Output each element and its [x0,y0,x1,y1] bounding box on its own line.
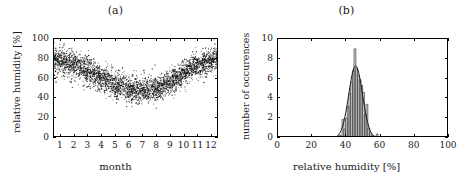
x-tick-mark-top [197,38,198,41]
y-tick-mark [53,58,56,59]
y-tick-mark-right [215,38,218,39]
x-tick-label: 0 [266,141,288,150]
panel-a: (a) relative humidity [%] month 12345678… [0,0,231,185]
x-tick-mark [414,134,415,137]
y-tick-mark-right [445,137,448,138]
y-tick-mark [277,58,280,59]
y-tick-mark [53,117,56,118]
x-tick-mark [184,134,185,137]
y-tick-label: 40 [23,93,49,102]
y-tick-label: 8 [247,54,273,63]
x-tick-mark [345,134,346,137]
x-tick-mark-top [115,38,116,41]
x-tick-mark [448,134,449,137]
y-tick-mark [277,38,280,39]
panel-b-y-axis-label: number of occurences [240,33,251,140]
y-tick-mark [277,97,280,98]
x-tick-mark-top [448,38,449,41]
x-tick-mark [380,134,381,137]
panel-b-x-axis-label: relative humidity [%] [231,161,462,172]
x-tick-mark [129,134,130,137]
x-tick-label: 100 [437,141,459,150]
x-tick-mark-top [184,38,185,41]
x-tick-label: 80 [403,141,425,150]
x-tick-mark-top [414,38,415,41]
x-tick-label: 20 [300,141,322,150]
y-tick-label: 4 [247,93,273,102]
x-tick-mark [211,134,212,137]
x-tick-label: 60 [369,141,391,150]
x-tick-mark [156,134,157,137]
x-tick-mark-top [170,38,171,41]
y-tick-mark [53,78,56,79]
panel-a-y-axis-label: relative humidity [%] [11,31,22,133]
y-tick-mark [277,117,280,118]
x-tick-mark [197,134,198,137]
y-tick-label: 100 [23,34,49,43]
x-tick-mark-top [101,38,102,41]
y-tick-mark-right [215,117,218,118]
y-tick-mark-right [445,78,448,79]
panel-b-plot-area [277,38,448,137]
x-tick-mark-top [142,38,143,41]
x-tick-mark [115,134,116,137]
y-tick-label: 0 [23,133,49,142]
x-tick-mark-top [74,38,75,41]
y-tick-label: 10 [247,34,273,43]
x-tick-mark-top [380,38,381,41]
x-tick-mark-top [60,38,61,41]
x-tick-label: 12 [200,141,222,150]
y-tick-mark [53,97,56,98]
y-tick-mark-right [215,58,218,59]
x-tick-mark [311,134,312,137]
figure-container: (a) relative humidity [%] month 12345678… [0,0,462,185]
x-tick-mark-top [311,38,312,41]
x-tick-mark [74,134,75,137]
y-tick-mark-right [215,78,218,79]
y-tick-label: 0 [247,133,273,142]
panel-b: (b) number of occurences relative humidi… [231,0,462,185]
y-tick-mark [53,38,56,39]
y-tick-label: 6 [247,74,273,83]
y-tick-mark [53,137,56,138]
panel-a-x-axis-label: month [0,161,231,172]
y-tick-mark-right [445,117,448,118]
y-tick-mark-right [445,58,448,59]
x-tick-mark [60,134,61,137]
x-tick-mark-top [211,38,212,41]
x-tick-mark-top [156,38,157,41]
y-tick-mark [277,78,280,79]
y-tick-label: 80 [23,54,49,63]
panel-b-title: (b) [231,4,462,17]
x-tick-mark-top [345,38,346,41]
y-tick-mark-right [215,137,218,138]
y-tick-label: 20 [23,113,49,122]
x-tick-mark [170,134,171,137]
x-tick-label: 40 [334,141,356,150]
y-tick-mark-right [445,38,448,39]
y-tick-mark [277,137,280,138]
x-tick-mark [87,134,88,137]
y-tick-label: 60 [23,74,49,83]
panel-a-plot-area [53,38,218,137]
panel-a-title: (a) [0,4,231,17]
y-tick-mark-right [445,97,448,98]
x-tick-mark-top [129,38,130,41]
histogram-plot [278,39,448,137]
y-tick-mark-right [215,97,218,98]
x-tick-mark [101,134,102,137]
scatter-plot [54,39,218,137]
x-tick-mark [142,134,143,137]
x-tick-mark-top [87,38,88,41]
y-tick-label: 2 [247,113,273,122]
